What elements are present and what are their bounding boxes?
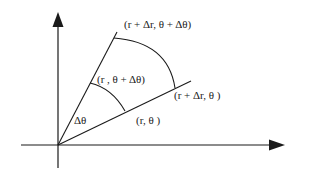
label-inner-lower: (r, θ ) bbox=[136, 115, 160, 126]
ray-theta bbox=[58, 81, 191, 145]
label-angle: Δθ bbox=[74, 115, 86, 126]
label-outer-lower: (r + Δr, θ ) bbox=[174, 90, 221, 101]
y-axis-arrowhead-icon bbox=[53, 12, 64, 27]
arc-inner bbox=[90, 83, 125, 111]
ray-theta-plus-dtheta bbox=[58, 32, 117, 145]
label-inner-upper: (r , θ + Δθ) bbox=[97, 74, 145, 85]
x-axis-arrowhead-icon bbox=[269, 140, 285, 151]
label-outer-upper: (r + Δr, θ + Δθ) bbox=[124, 19, 191, 30]
